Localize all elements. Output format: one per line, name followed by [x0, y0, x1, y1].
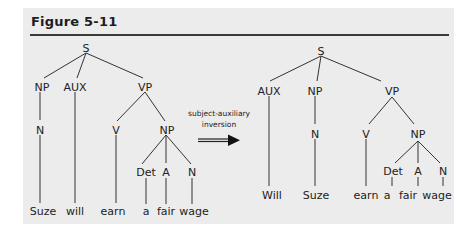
word-fair: fair — [399, 189, 418, 202]
right-tree: S AUX NP VP N V NP Det A N Will Suze ear… — [257, 45, 452, 202]
syntax-tree-diagram: S NP AUX VP N V NP Det A N Suze will ear… — [0, 0, 475, 234]
node-AUX: AUX — [257, 85, 281, 98]
node-NP: NP — [35, 81, 50, 94]
node-NP-object: NP — [160, 124, 175, 137]
node-AUX: AUX — [63, 81, 87, 94]
transformation: subject-auxiliary inversion — [188, 109, 251, 146]
transformation-label-line2: inversion — [202, 120, 237, 129]
node-VP: VP — [138, 81, 153, 94]
word-earn: earn — [101, 205, 126, 218]
word-wage: wage — [422, 189, 452, 202]
node-S: S — [83, 42, 90, 55]
node-A: A — [162, 166, 170, 179]
word-will: will — [66, 205, 84, 218]
node-NP: NP — [308, 85, 323, 98]
word-suze: Suze — [303, 189, 330, 202]
node-A: A — [414, 165, 422, 178]
node-N: N — [311, 128, 319, 141]
word-wage: wage — [179, 205, 209, 218]
node-V: V — [112, 124, 120, 137]
double-arrow-icon — [198, 135, 240, 147]
node-VP: VP — [385, 85, 400, 98]
node-Det: Det — [136, 166, 156, 179]
node-Det: Det — [383, 165, 403, 178]
word-a: a — [143, 205, 150, 218]
left-tree: S NP AUX VP N V NP Det A N Suze will ear… — [30, 42, 209, 218]
word-a: a — [384, 189, 391, 202]
transformation-label-line1: subject-auxiliary — [188, 109, 251, 118]
node-N-object: N — [439, 165, 447, 178]
node-S: S — [318, 45, 325, 58]
word-suze: Suze — [30, 205, 57, 218]
word-earn: earn — [354, 189, 379, 202]
node-N: N — [36, 124, 44, 137]
node-NP-object: NP — [411, 128, 426, 141]
word-fair: fair — [157, 205, 176, 218]
node-V: V — [362, 128, 370, 141]
node-N-object: N — [188, 166, 196, 179]
word-will: Will — [262, 189, 282, 202]
